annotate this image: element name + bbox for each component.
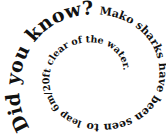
- body-text-inner: leap 6m/20ft clear of the water.: [40, 33, 132, 130]
- spiral-text-graphic: Did you know? Mako sharks have been seen…: [0, 0, 166, 137]
- spiral-text: Did you know? Mako sharks have been seen…: [1, 0, 166, 137]
